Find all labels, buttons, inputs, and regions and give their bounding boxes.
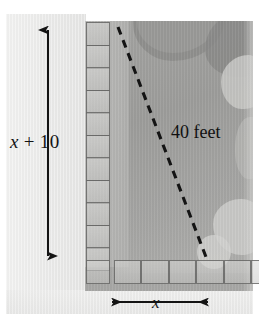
tile-left-column: [86, 225, 110, 249]
vertical-dimension-label: x + 10: [10, 131, 59, 153]
vertical-dimension-operator: +: [19, 131, 40, 152]
left-margin-panel: [6, 14, 86, 308]
horizontal-dimension-label: x: [152, 293, 160, 313]
tile-bottom-row: [141, 260, 169, 284]
tile-left-column: [86, 157, 110, 181]
pool-photo: [85, 21, 253, 291]
pool-dimension-figure: x + 10 x 40 feet: [0, 0, 259, 323]
tile-corner: [86, 260, 110, 284]
vertical-dimension-constant: 10: [40, 131, 60, 152]
tile-left-column: [86, 90, 110, 114]
pool-edge-right-band: [243, 21, 253, 291]
tile-bottom-row: [114, 260, 142, 284]
tile-bottom-row: [196, 260, 224, 284]
tile-bottom-row: [224, 260, 252, 284]
tile-bottom-row: [169, 260, 197, 284]
tile-left-column: [86, 112, 110, 136]
tile-left-column: [86, 45, 110, 69]
tile-left-column: [86, 22, 110, 46]
tile-bottom-row: [251, 260, 259, 284]
tile-left-column: [86, 202, 110, 226]
diagonal-distance-label: 40 feet: [171, 122, 220, 143]
tile-left-column: [86, 180, 110, 204]
tile-left-column: [86, 135, 110, 159]
bottom-margin-strip: [6, 290, 253, 314]
vertical-dimension-variable: x: [10, 131, 19, 152]
tile-left-column: [86, 67, 110, 91]
